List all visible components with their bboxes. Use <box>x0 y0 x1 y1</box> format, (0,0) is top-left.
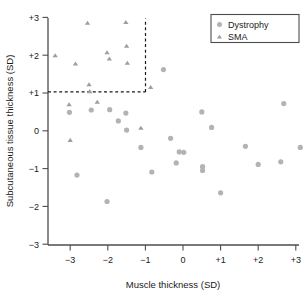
y-tick-label-6: +3 <box>29 13 39 23</box>
data-point-sma-12 <box>125 61 130 65</box>
x-axis-title: Muscle thickness (SD) <box>126 279 221 290</box>
y-tick-label-3: 0 <box>34 126 39 136</box>
legend: DystrophySMA <box>211 15 299 43</box>
data-point-sma-6 <box>87 89 92 93</box>
data-point-dystrophy-24 <box>298 145 303 150</box>
x-tick-label-5: +2 <box>253 255 263 265</box>
data-point-dystrophy-21 <box>256 162 261 167</box>
y-axis-title: Subcutaneous tissue thickness (SD) <box>4 55 15 208</box>
data-point-dystrophy-23 <box>281 101 286 106</box>
data-point-sma-4 <box>85 21 90 25</box>
legend-label-dystrophy: Dystrophy <box>228 20 269 30</box>
y-tick-label-5: +2 <box>29 51 39 61</box>
data-point-dystrophy-22 <box>278 159 283 164</box>
plot-canvas: −3−2−10+1+2+3 −3−2−10+1+2+3 DystrophySMA… <box>0 0 307 301</box>
data-point-sma-9 <box>107 57 112 61</box>
data-point-dystrophy-17 <box>200 168 205 173</box>
data-point-sma-8 <box>104 50 109 54</box>
data-point-dystrophy-7 <box>124 127 129 132</box>
data-point-sma-5 <box>86 82 91 86</box>
data-point-dystrophy-20 <box>243 144 248 149</box>
series-sma-points <box>53 20 154 142</box>
data-point-dystrophy-13 <box>177 149 182 154</box>
data-point-dystrophy-1 <box>74 172 79 177</box>
data-point-dystrophy-8 <box>138 145 143 150</box>
data-point-sma-10 <box>123 20 128 24</box>
data-point-dystrophy-19 <box>218 190 223 195</box>
x-tick-label-1: −2 <box>103 255 113 265</box>
x-tick-label-3: 0 <box>180 255 185 265</box>
data-point-dystrophy-5 <box>116 118 121 123</box>
x-tick-label-4: +1 <box>215 255 225 265</box>
data-point-dystrophy-3 <box>104 199 109 204</box>
data-point-dystrophy-14 <box>181 150 186 155</box>
x-axis-ticks <box>70 245 296 251</box>
data-point-sma-0 <box>53 53 58 57</box>
scatter-plot-figure: −3−2−10+1+2+3 −3−2−10+1+2+3 DystrophySMA… <box>0 0 307 301</box>
data-point-sma-11 <box>124 44 129 48</box>
threshold-reference-lines <box>48 19 146 92</box>
data-point-dystrophy-10 <box>161 67 166 72</box>
y-tick-label-1: −2 <box>29 202 39 212</box>
x-tick-label-6: +3 <box>291 255 301 265</box>
y-axis-tick-labels: −3−2−10+1+2+3 <box>29 13 39 250</box>
data-point-dystrophy-15 <box>199 109 204 114</box>
data-point-sma-7 <box>95 100 100 104</box>
y-axis-ticks <box>43 17 49 244</box>
y-tick-label-4: +1 <box>29 88 39 98</box>
data-point-dystrophy-12 <box>174 160 179 165</box>
y-tick-label-0: −3 <box>29 240 39 250</box>
x-axis-tick-labels: −3−2−10+1+2+3 <box>65 255 301 265</box>
data-point-dystrophy-11 <box>168 136 173 141</box>
legend-marker-dystrophy <box>217 22 222 27</box>
data-point-dystrophy-4 <box>107 107 112 112</box>
data-point-sma-2 <box>68 138 73 142</box>
data-point-dystrophy-6 <box>123 110 128 115</box>
data-point-dystrophy-9 <box>149 169 154 174</box>
data-point-dystrophy-18 <box>209 125 214 130</box>
data-point-sma-13 <box>138 126 143 130</box>
x-tick-label-0: −3 <box>65 255 75 265</box>
data-point-dystrophy-2 <box>89 107 94 112</box>
data-point-sma-1 <box>66 102 71 106</box>
series-dystrophy-points <box>67 67 303 204</box>
legend-label-sma: SMA <box>228 32 248 42</box>
y-tick-label-2: −1 <box>29 164 39 174</box>
data-point-dystrophy-0 <box>67 110 72 115</box>
x-tick-label-2: −1 <box>140 255 150 265</box>
data-point-sma-14 <box>148 85 153 89</box>
data-point-sma-3 <box>73 61 78 65</box>
